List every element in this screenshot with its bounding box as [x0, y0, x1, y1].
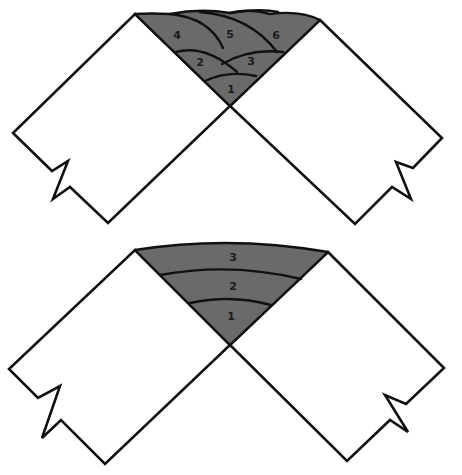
- top-joint-diagram: 1 2 3 4 5 6: [13, 10, 442, 224]
- weld-diagram-canvas: 1 2 3 4 5 6 1 2 3: [0, 0, 462, 475]
- bottom-joint-diagram: 1 2 3: [9, 243, 444, 464]
- bottom-bead-label-1: 1: [227, 310, 235, 323]
- top-bead-label-3: 3: [247, 55, 255, 68]
- top-bead-label-5: 5: [226, 28, 234, 41]
- top-bead-label-2: 2: [196, 56, 204, 69]
- top-bead-label-1: 1: [227, 83, 235, 96]
- top-bead-label-6: 6: [272, 29, 280, 42]
- bottom-bead-label-2: 2: [229, 280, 237, 293]
- bottom-bead-label-3: 3: [229, 251, 237, 264]
- top-bead-label-4: 4: [173, 29, 181, 42]
